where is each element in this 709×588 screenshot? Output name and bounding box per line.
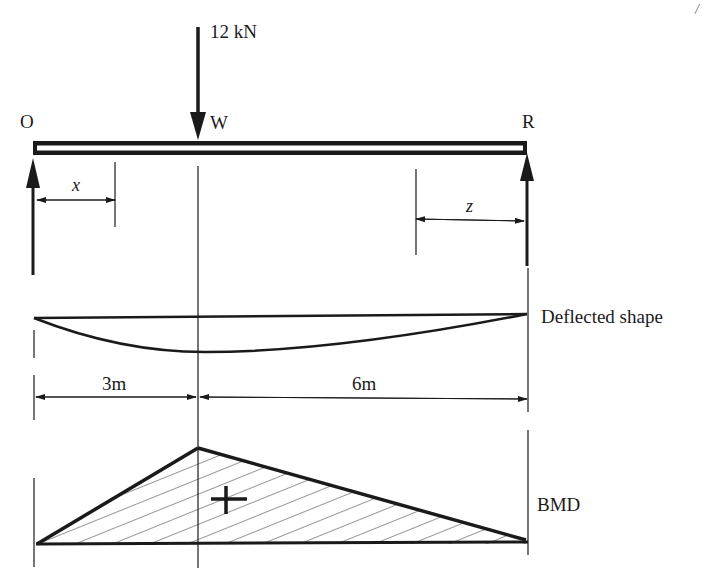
left-reaction-arrow-icon <box>26 158 40 275</box>
right-support-label: R <box>522 112 535 131</box>
load-point-label: W <box>210 113 228 132</box>
bending-moment-diagram <box>34 448 528 567</box>
section-x-label: x <box>72 176 80 194</box>
load-label: 12 kN <box>210 22 257 41</box>
left-span-label: 3m <box>102 374 126 393</box>
load-arrow-icon <box>190 27 206 140</box>
beam-diagram <box>0 0 709 588</box>
beam <box>33 141 527 155</box>
right-span-label: 6m <box>352 374 376 393</box>
right-reaction-arrow-icon <box>520 153 534 266</box>
deflected-shape-label: Deflected shape <box>541 307 663 326</box>
section-z-label: z <box>466 197 473 215</box>
deflected-shape <box>34 314 527 358</box>
bmd-label: BMD <box>537 495 580 514</box>
left-support-label: O <box>20 112 34 131</box>
corner-mark: / <box>695 2 699 18</box>
